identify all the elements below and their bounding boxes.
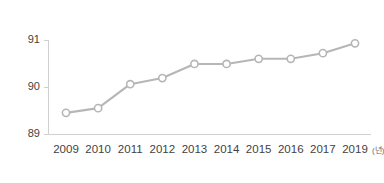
x-tick-label-2016: 2016 xyxy=(278,143,304,155)
series-line xyxy=(66,43,355,113)
y-tick-label-91: 91 xyxy=(14,34,40,45)
series-markers xyxy=(62,40,358,117)
x-tick-label-2009: 2009 xyxy=(53,143,79,155)
data-point-2017 xyxy=(319,50,326,57)
data-point-2009 xyxy=(62,109,69,116)
x-tick-label-2010: 2010 xyxy=(85,143,111,155)
x-tick-label-2011: 2011 xyxy=(118,143,143,155)
y-tick-label-90: 90 xyxy=(14,81,40,92)
data-point-2014 xyxy=(223,60,230,67)
y-tick-label-89: 89 xyxy=(14,128,40,139)
x-axis-unit-label: (년) xyxy=(372,146,384,155)
data-point-2010 xyxy=(95,105,102,112)
x-tick-label-2019: 2019 xyxy=(342,143,368,155)
x-tick-label-2012: 2012 xyxy=(150,143,176,155)
x-tick-label-2014: 2014 xyxy=(214,143,240,155)
data-point-2019 xyxy=(351,40,358,47)
x-tick-label-2015: 2015 xyxy=(246,143,272,155)
data-point-2011 xyxy=(127,81,134,88)
data-point-2016 xyxy=(287,55,294,62)
x-tick-label-2017: 2017 xyxy=(310,143,336,155)
chart-series-group xyxy=(62,40,358,117)
data-point-2013 xyxy=(191,60,198,67)
data-point-2015 xyxy=(255,55,262,62)
x-tick-label-2013: 2013 xyxy=(182,143,208,155)
data-point-2012 xyxy=(159,74,166,81)
